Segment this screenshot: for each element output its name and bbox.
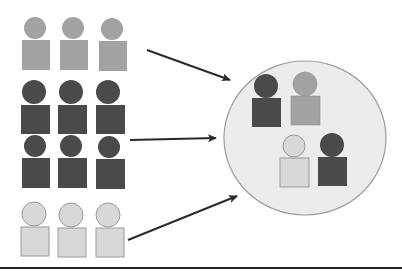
arrow-light-to-circle — [128, 196, 237, 240]
person-icon — [96, 203, 124, 257]
person-icon — [291, 72, 320, 125]
person-icon — [60, 17, 88, 70]
person-icon — [99, 18, 127, 71]
person-icon — [96, 80, 125, 134]
person-icon — [22, 17, 50, 70]
person-icon — [280, 135, 309, 187]
light-group — [21, 202, 124, 257]
person-icon — [21, 202, 49, 256]
diagram-canvas — [0, 0, 402, 274]
person-icon — [318, 133, 347, 186]
person-icon — [96, 136, 125, 189]
arrow-medium-to-circle — [147, 50, 230, 80]
baseline-divider — [0, 267, 402, 269]
person-icon — [21, 80, 50, 134]
person-icon — [22, 135, 50, 188]
person-icon — [58, 80, 87, 134]
person-icon — [58, 203, 86, 257]
dark-group — [21, 80, 125, 189]
person-icon — [58, 135, 87, 188]
sample-circle — [224, 61, 386, 215]
sampling-diagram — [0, 0, 402, 274]
person-icon — [252, 74, 281, 127]
arrow-dark-to-circle — [130, 138, 216, 140]
medium-group — [22, 17, 127, 71]
